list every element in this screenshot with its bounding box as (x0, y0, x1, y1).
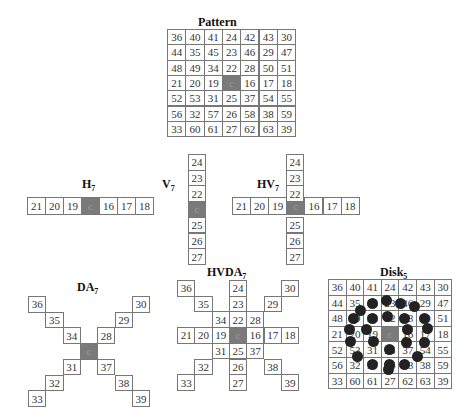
grid-cell: 25 (222, 90, 241, 106)
grid-cell: 16 (99, 197, 118, 215)
grid-cell: 31 (204, 90, 223, 106)
grid-cell: 16 (304, 197, 323, 215)
sample-dot (382, 311, 393, 322)
grid-cell: 63 (416, 373, 435, 390)
grid-cell: 59 (434, 357, 453, 374)
title-main: HVDA (207, 265, 242, 279)
grid-cell: 26 (229, 359, 247, 376)
title-main: HV (257, 177, 275, 191)
center-cell: c (229, 327, 247, 344)
grid-cell: 22 (229, 311, 247, 328)
sample-dot (352, 351, 363, 362)
grid-cell: 39 (434, 373, 453, 390)
grid-cell: 39 (132, 390, 150, 407)
sample-dot (368, 336, 379, 347)
grid-cell: 20 (185, 75, 204, 91)
grid-cell: 51 (277, 60, 296, 76)
grid-cell: 38 (115, 375, 133, 392)
grid-cell: 21 (177, 327, 195, 344)
sample-dot (384, 344, 395, 355)
sample-dot (367, 359, 378, 370)
grid-cell: 27 (222, 121, 241, 137)
grid-cell: 35 (194, 296, 212, 313)
grid-cell: 23 (222, 44, 241, 60)
center-cell: c (188, 201, 206, 218)
title-main: H (82, 177, 91, 191)
grid-cell: 56 (328, 357, 347, 374)
grid-cell: 36 (328, 279, 347, 296)
grid-cell: 18 (434, 326, 453, 343)
grid-cell: 22 (188, 185, 206, 202)
grid-cell: 26 (286, 233, 304, 250)
grid-cell: 63 (259, 121, 278, 137)
grid-cell: 51 (434, 310, 453, 327)
sample-dot (383, 364, 394, 375)
grid-cell: 31 (212, 343, 230, 360)
sample-dot (345, 336, 356, 347)
grid-cell: 41 (204, 29, 223, 45)
grid-cell: 48 (167, 60, 186, 76)
grid-cell: 30 (434, 279, 453, 296)
grid-cell: 28 (240, 60, 259, 76)
grid-cell: 49 (185, 60, 204, 76)
title-hvda7: HVDA7 (207, 265, 246, 281)
grid-cell: 47 (277, 44, 296, 60)
grid-cell: 32 (45, 375, 63, 392)
grid-cell: 43 (259, 29, 278, 45)
grid-cell: 21 (27, 197, 46, 215)
grid-cell: 56 (167, 106, 186, 122)
grid-cell: 28 (97, 327, 115, 344)
sample-dot (419, 337, 430, 348)
grid-cell: 33 (167, 121, 186, 137)
grid-cell: 62 (398, 373, 417, 390)
grid-cell: 36 (28, 296, 46, 313)
sample-dot (399, 359, 410, 370)
grid-cell: 55 (277, 90, 296, 106)
grid-cell: 24 (222, 29, 241, 45)
grid-cell: 27 (229, 374, 247, 391)
grid-cell: 17 (259, 75, 278, 91)
grid-cell: 50 (259, 60, 278, 76)
grid-cell: 24 (188, 154, 206, 171)
sample-dot (409, 301, 420, 312)
grid-cell: 25 (286, 217, 304, 234)
grid-cell: 52 (167, 90, 186, 106)
grid-cell: 42 (240, 29, 259, 45)
grid-cell: 17 (264, 327, 282, 344)
sample-dot (361, 324, 372, 335)
grid-cell: 38 (264, 359, 282, 376)
sample-dot (395, 298, 406, 309)
grid-cell: 18 (281, 327, 299, 344)
title-subscript: 7 (275, 184, 279, 193)
grid-cell: 35 (45, 312, 63, 329)
grid-cell: 43 (416, 279, 435, 296)
title-pattern: Pattern (198, 15, 237, 30)
grid-cell: 48 (328, 310, 347, 327)
grid-cell: 30 (277, 29, 296, 45)
title-subscript: 7 (171, 184, 175, 193)
grid-cell: 17 (117, 197, 136, 215)
grid-cell: 23 (188, 170, 206, 187)
title-subscript: 7 (91, 184, 95, 193)
sample-dot (422, 323, 433, 334)
grid-cell: 42 (398, 279, 417, 296)
grid-cell: 32 (185, 106, 204, 122)
sample-dot (399, 313, 410, 324)
grid-cell: 52 (328, 341, 347, 358)
grid-cell: 61 (204, 121, 223, 137)
grid-cell: 35 (185, 44, 204, 60)
grid-cell: 16 (246, 327, 264, 344)
grid-cell: 32 (194, 359, 212, 376)
grid-cell: 41 (363, 279, 382, 296)
grid-cell: 46 (240, 44, 259, 60)
grid-cell: 33 (177, 374, 195, 391)
sample-dot (419, 313, 430, 324)
title-main: DA (77, 280, 94, 294)
sample-dot (402, 324, 413, 335)
grid-cell: 29 (259, 44, 278, 60)
grid-cell: 29 (264, 296, 282, 313)
grid-cell: 20 (194, 327, 212, 344)
grid-cell: 34 (204, 60, 223, 76)
grid-cell: 29 (115, 312, 133, 329)
grid-cell: 23 (229, 296, 247, 313)
